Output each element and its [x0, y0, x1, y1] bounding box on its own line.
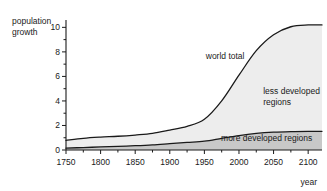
y-tick-label: 6: [55, 71, 60, 81]
y-tick-label: 0: [55, 145, 60, 155]
series-label-less-developed-line1: less developed: [263, 86, 320, 96]
y-tick-label: 8: [55, 47, 60, 57]
x-tick-label: 1950: [195, 157, 214, 167]
y-tick-label: 4: [55, 96, 60, 106]
series-label-less-developed-line2: regions: [263, 97, 291, 107]
y-tick-label: 2: [55, 120, 60, 130]
y-axis-label-line1: population: [12, 16, 52, 26]
x-tick-label: 2050: [264, 157, 283, 167]
x-tick-label: 1750: [57, 157, 76, 167]
x-tick-label: 1850: [126, 157, 145, 167]
population-growth-chart: 0246810 17501800185019001950200020502100…: [0, 0, 327, 191]
series-label-world-total: world total: [205, 51, 245, 61]
x-tick-label: 2100: [299, 157, 318, 167]
x-axis-label: year: [300, 177, 317, 187]
x-tick-label: 1800: [91, 157, 110, 167]
x-tick-label: 1900: [160, 157, 179, 167]
y-axis-label-line2: growth: [12, 27, 38, 37]
x-tick-label: 2000: [230, 157, 249, 167]
y-tick-label: 10: [51, 22, 61, 32]
series-label-more-developed: more developed regions: [221, 133, 312, 143]
